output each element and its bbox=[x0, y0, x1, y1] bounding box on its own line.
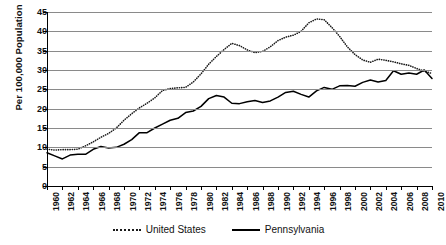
x-tick-label: 1972 bbox=[143, 192, 153, 211]
x-tick-mark bbox=[355, 186, 356, 190]
y-tick-mark bbox=[43, 128, 47, 129]
x-tick-label: 1984 bbox=[235, 192, 245, 211]
x-tick-label: 2008 bbox=[420, 192, 430, 211]
y-tick-mark bbox=[43, 167, 47, 168]
y-tick-mark bbox=[43, 12, 47, 13]
x-tick-mark bbox=[62, 186, 63, 190]
x-tick-mark bbox=[170, 186, 171, 190]
x-tick-mark bbox=[186, 186, 187, 190]
x-tick-mark bbox=[232, 186, 233, 190]
y-tick-mark bbox=[43, 186, 47, 187]
x-tick-label: 1966 bbox=[97, 192, 107, 211]
x-tick-label: 1988 bbox=[266, 192, 276, 211]
x-tick-label: 1970 bbox=[128, 192, 138, 211]
x-tick-mark bbox=[247, 186, 248, 190]
x-tick-mark bbox=[386, 186, 387, 190]
x-tick-label: 1992 bbox=[297, 192, 307, 211]
x-tick-mark bbox=[324, 186, 325, 190]
x-tick-label: 1974 bbox=[158, 192, 168, 211]
x-tick-mark bbox=[124, 186, 125, 190]
x-tick-label: 1996 bbox=[328, 192, 338, 211]
dotted-line-swatch-icon bbox=[113, 229, 141, 231]
x-tick-label: 1978 bbox=[189, 192, 199, 211]
y-tick-mark bbox=[43, 51, 47, 52]
x-tick-label: 2010 bbox=[436, 192, 446, 211]
x-tick-mark bbox=[263, 186, 264, 190]
x-tick-mark bbox=[216, 186, 217, 190]
x-tick-mark bbox=[201, 186, 202, 190]
x-tick-mark bbox=[293, 186, 294, 190]
legend-item-pennsylvania: Pennsylvania bbox=[232, 224, 324, 235]
x-tick-mark bbox=[78, 186, 79, 190]
x-tick-label: 1982 bbox=[220, 192, 230, 211]
x-tick-label: 1968 bbox=[112, 192, 122, 211]
x-tick-label: 1964 bbox=[81, 192, 91, 211]
x-tick-mark bbox=[401, 186, 402, 190]
legend-item-united-states: United States bbox=[113, 224, 206, 235]
x-tick-label: 1990 bbox=[282, 192, 292, 211]
x-tick-mark bbox=[309, 186, 310, 190]
y-tick-mark bbox=[43, 147, 47, 148]
x-tick-label: 1998 bbox=[343, 192, 353, 211]
x-tick-label: 2000 bbox=[359, 192, 369, 211]
x-tick-mark bbox=[417, 186, 418, 190]
x-tick-mark bbox=[155, 186, 156, 190]
x-tick-mark bbox=[93, 186, 94, 190]
x-tick-mark bbox=[47, 186, 48, 190]
x-tick-mark bbox=[278, 186, 279, 190]
y-tick-mark bbox=[43, 109, 47, 110]
y-tick-mark bbox=[43, 31, 47, 32]
x-tick-label: 1962 bbox=[66, 192, 76, 211]
legend-label-pennsylvania: Pennsylvania bbox=[265, 224, 324, 235]
x-tick-mark bbox=[139, 186, 140, 190]
x-tick-label: 1994 bbox=[312, 192, 322, 211]
x-tick-label: 1986 bbox=[251, 192, 261, 211]
x-tick-label: 1980 bbox=[205, 192, 215, 211]
y-tick-mark bbox=[43, 70, 47, 71]
x-tick-mark bbox=[370, 186, 371, 190]
x-tick-label: 1976 bbox=[174, 192, 184, 211]
chart-legend: United States Pennsylvania bbox=[0, 224, 437, 235]
x-tick-label: 1960 bbox=[51, 192, 61, 211]
x-tick-label: 2006 bbox=[405, 192, 415, 211]
y-tick-mark bbox=[43, 89, 47, 90]
x-tick-mark bbox=[109, 186, 110, 190]
x-tick-label: 2002 bbox=[374, 192, 384, 211]
x-tick-mark bbox=[432, 186, 433, 190]
legend-label-united-states: United States bbox=[146, 224, 206, 235]
solid-line-swatch-icon bbox=[232, 229, 260, 231]
x-tick-label: 2004 bbox=[389, 192, 399, 211]
x-tick-mark bbox=[340, 186, 341, 190]
